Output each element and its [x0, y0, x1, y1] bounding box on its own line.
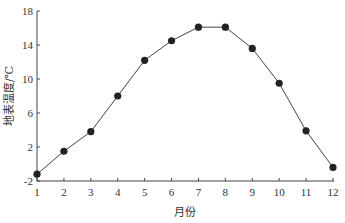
series-line — [33, 24, 336, 178]
y-tick-label: 10 — [22, 73, 34, 85]
y-axis: -226101418 — [22, 5, 40, 187]
data-point-marker — [222, 24, 229, 31]
x-tick-label: 1 — [34, 186, 40, 198]
data-point-marker — [276, 80, 283, 87]
x-tick-label: 10 — [274, 186, 286, 198]
y-tick-label: 6 — [28, 107, 34, 119]
data-point-marker — [249, 45, 256, 52]
data-point-marker — [141, 57, 148, 64]
data-point-marker — [60, 148, 67, 155]
line-chart: -226101418 123456789101112 月份 地表温度/℃ — [0, 0, 345, 223]
x-tick-label: 7 — [196, 186, 202, 198]
x-axis: 123456789101112 — [34, 178, 338, 198]
x-tick-label: 2 — [61, 186, 67, 198]
x-tick-label: 4 — [115, 186, 121, 198]
x-tick-label: 3 — [88, 186, 94, 198]
y-tick-label: -2 — [24, 175, 33, 187]
y-tick-label: 18 — [22, 5, 34, 17]
x-tick-label: 5 — [142, 186, 148, 198]
x-tick-label: 9 — [250, 186, 256, 198]
data-point-marker — [302, 127, 309, 134]
data-point-marker — [87, 128, 94, 135]
y-tick-label: 14 — [22, 39, 34, 51]
y-axis-title: 地表温度/℃ — [2, 66, 16, 126]
data-point-marker — [168, 37, 175, 44]
x-tick-label: 11 — [301, 186, 312, 198]
y-tick-label: 2 — [28, 141, 34, 153]
data-point-marker — [329, 164, 336, 171]
data-point-marker — [195, 24, 202, 31]
x-tick-label: 12 — [328, 186, 339, 198]
x-tick-label: 6 — [169, 186, 175, 198]
x-tick-label: 8 — [223, 186, 229, 198]
data-point-marker — [114, 92, 121, 99]
data-point-marker — [33, 171, 40, 178]
x-axis-title: 月份 — [174, 206, 196, 219]
